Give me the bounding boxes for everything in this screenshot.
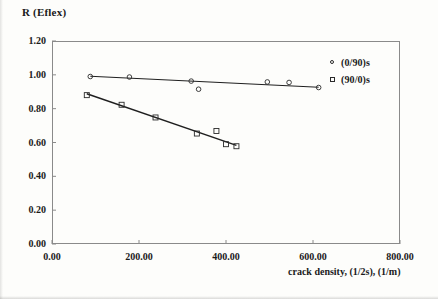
y-tick-label: 0.80 bbox=[10, 103, 46, 114]
data-point bbox=[287, 80, 292, 85]
y-tick-label: 1.00 bbox=[10, 69, 46, 80]
data-point bbox=[196, 87, 201, 92]
y-tick-label: 0.00 bbox=[10, 238, 46, 249]
chart-figure: R (Eflex) 0.000.200.400.600.801.001.20 0… bbox=[0, 0, 438, 299]
series-0 bbox=[88, 74, 321, 91]
data-point bbox=[84, 93, 89, 98]
x-tick-label: 0.00 bbox=[24, 251, 80, 262]
chart-legend: (0/90)s (90/0)s bbox=[327, 54, 427, 88]
square-marker-icon bbox=[327, 74, 338, 85]
x-tick-label: 800.00 bbox=[372, 251, 428, 262]
x-tick-label: 400.00 bbox=[198, 251, 254, 262]
x-axis-title: crack density, (1/2s), (1/m) bbox=[288, 266, 401, 277]
trend-line bbox=[90, 76, 318, 87]
legend-item-0: (0/90)s bbox=[327, 54, 427, 71]
scan-edge-left bbox=[0, 0, 3, 299]
data-point bbox=[265, 80, 270, 85]
data-point bbox=[214, 128, 219, 133]
data-series-layer bbox=[84, 74, 321, 148]
y-tick-label: 0.40 bbox=[10, 170, 46, 181]
circle-marker-icon bbox=[327, 57, 338, 68]
legend-label-1: (90/0)s bbox=[341, 74, 370, 85]
legend-label-0: (0/90)s bbox=[341, 57, 370, 68]
x-tick-label: 600.00 bbox=[285, 251, 341, 262]
series-1 bbox=[84, 93, 239, 149]
trend-line bbox=[87, 94, 237, 146]
y-tick-label: 0.20 bbox=[10, 204, 46, 215]
x-tick-label: 200.00 bbox=[111, 251, 167, 262]
legend-item-1: (90/0)s bbox=[327, 71, 427, 88]
data-point bbox=[127, 75, 132, 80]
y-tick-label: 1.20 bbox=[10, 35, 46, 46]
y-tick-label: 0.60 bbox=[10, 137, 46, 148]
